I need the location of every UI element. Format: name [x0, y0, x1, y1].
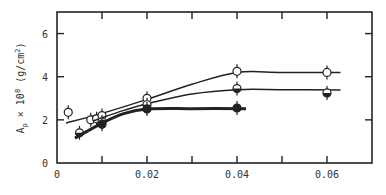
chart: 00.020.040.060246 Ap × 108 (g/cm2) [0, 0, 386, 195]
x-tick-label: 0.02 [135, 169, 159, 180]
y-tick-label: 0 [42, 158, 48, 169]
axis-ticks: 00.020.040.060246 [42, 12, 372, 180]
data-point [233, 104, 241, 112]
y-tick-label: 4 [42, 72, 48, 83]
x-tick-label: 0 [54, 169, 60, 180]
y-axis-label: Ap × 108 (g/cm2) [14, 43, 29, 134]
y-tick-label: 2 [42, 115, 48, 126]
data-point [64, 108, 72, 116]
y-tick-label: 6 [42, 29, 48, 40]
axes-frame [57, 12, 372, 163]
series-half-filled [76, 82, 341, 140]
x-tick-label: 0.04 [225, 169, 249, 180]
data-point [323, 68, 331, 76]
series-open-circles [64, 64, 340, 127]
svg-text:Ap × 108 (g/cm2): Ap × 108 (g/cm2) [14, 43, 29, 134]
data-point [98, 120, 106, 128]
data-point [143, 105, 151, 113]
x-tick-label: 0.06 [315, 169, 339, 180]
data-series [64, 64, 340, 139]
data-point [233, 67, 241, 75]
